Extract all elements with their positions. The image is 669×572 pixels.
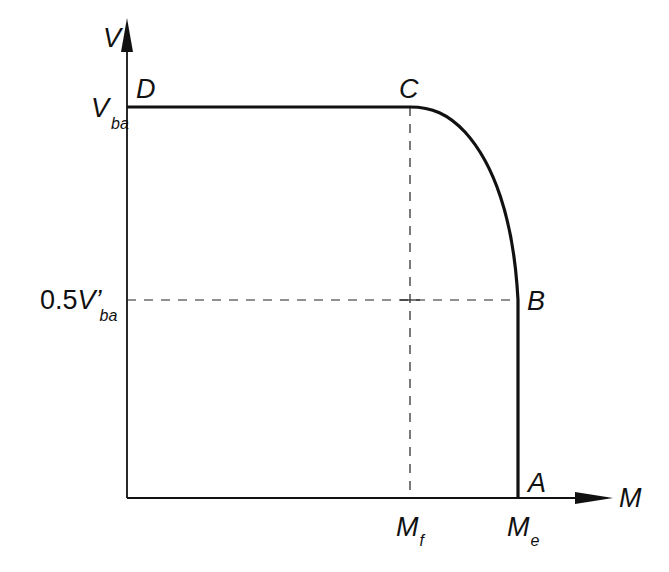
vba-tick-label: Vba xyxy=(91,95,127,122)
vba-sub: ba xyxy=(111,115,129,132)
me-main: M xyxy=(507,512,530,542)
half-vba-tick-label: 0.5V’ba xyxy=(40,287,119,314)
point-d-label: D xyxy=(136,76,156,103)
interaction-curve xyxy=(127,107,518,498)
point-c-label: C xyxy=(399,76,419,103)
vba-main: V xyxy=(91,93,109,123)
mf-main: M xyxy=(396,512,419,542)
mf-tick-label: Mf xyxy=(396,514,423,541)
m-axis-arrow-icon xyxy=(575,492,613,504)
point-a-label: A xyxy=(528,470,546,497)
half-main: V’ xyxy=(78,285,102,315)
mf-sub: f xyxy=(420,532,424,549)
half-prefix: 0.5 xyxy=(40,285,78,315)
half-sub: ba xyxy=(100,307,118,324)
v-axis-arrow-icon xyxy=(121,18,133,52)
me-sub: e xyxy=(531,532,540,549)
v-axis-label: V xyxy=(103,25,121,52)
m-axis-label: M xyxy=(619,485,642,512)
me-tick-label: Me xyxy=(507,514,538,541)
point-b-label: B xyxy=(527,288,545,315)
